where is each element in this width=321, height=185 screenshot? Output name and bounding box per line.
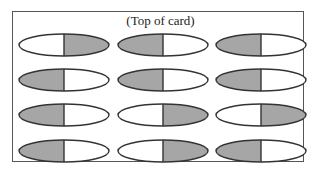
split-oval <box>19 104 109 126</box>
split-oval <box>118 69 208 91</box>
split-oval <box>118 140 208 162</box>
split-oval <box>19 69 109 91</box>
split-oval <box>216 104 306 126</box>
split-oval <box>118 104 208 126</box>
oval-grid <box>0 0 321 185</box>
split-oval <box>118 34 208 56</box>
split-oval <box>216 69 306 91</box>
split-oval <box>19 140 109 162</box>
split-oval <box>19 34 109 56</box>
split-oval <box>216 34 306 56</box>
split-oval <box>216 140 306 162</box>
